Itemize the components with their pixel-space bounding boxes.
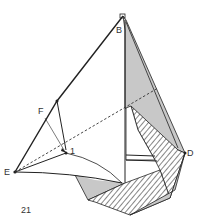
label-point-1: 1	[70, 147, 75, 156]
step-number: 21	[21, 206, 31, 215]
label-d: D	[187, 149, 194, 158]
label-f: F	[38, 107, 44, 116]
fold-diagram-graphic	[0, 0, 201, 224]
label-b: B	[116, 26, 122, 35]
origami-diagram: B D E F 1 21	[0, 0, 201, 224]
main-face	[15, 16, 125, 183]
label-e: E	[4, 168, 10, 177]
